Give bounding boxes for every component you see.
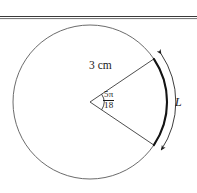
angle-fraction: 5π 18 xyxy=(103,90,114,111)
figure-canvas xyxy=(0,0,197,193)
angle-denominator: 18 xyxy=(103,101,114,110)
central-angle-label: 5π 18 xyxy=(103,90,114,111)
radius-line-lower xyxy=(90,102,154,145)
geometry-figure: 3 cm L 5π 18 xyxy=(0,0,197,193)
top-rule xyxy=(0,17,197,19)
angle-numerator: 5π xyxy=(103,90,114,99)
radius-label: 3 cm xyxy=(89,60,112,72)
arc-length-label: L xyxy=(175,96,182,108)
subtended-arc xyxy=(154,59,167,145)
arc-length-measure xyxy=(161,54,176,150)
